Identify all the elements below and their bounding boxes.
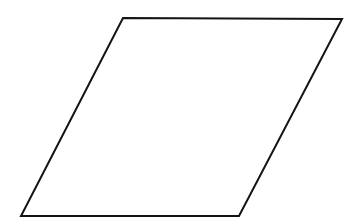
figure-canvas: Parallelogram A line drawing of a parall… [0,0,351,224]
parallelogram-figure: Parallelogram A line drawing of a parall… [0,0,351,224]
parallelogram-shape [21,18,342,216]
